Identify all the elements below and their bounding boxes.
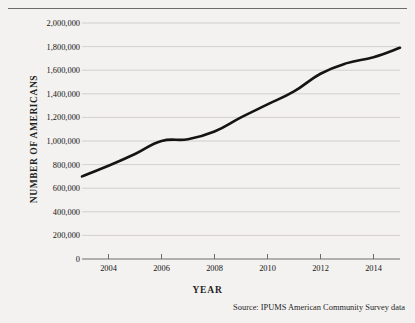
x-axis-tick-label: 2012 — [312, 264, 329, 273]
x-axis-title: YEAR — [0, 285, 415, 295]
x-axis-tick-label: 2004 — [100, 264, 117, 273]
x-axis-tick-label: 2006 — [153, 264, 170, 273]
source-note: Source: IPUMS American Community Survey … — [233, 303, 405, 312]
x-axis-tick-label: 2008 — [206, 264, 223, 273]
x-axis-tick-label: 2010 — [259, 264, 276, 273]
x-axis-tick-label: 2014 — [365, 264, 382, 273]
chart-figure: NUMBER OF AMERICANS 0200,000400,000600,0… — [0, 0, 415, 323]
data-series-line — [82, 48, 400, 177]
gridlines — [82, 23, 400, 259]
plot-area — [0, 0, 415, 323]
x-axis-tick-marks — [109, 254, 374, 259]
